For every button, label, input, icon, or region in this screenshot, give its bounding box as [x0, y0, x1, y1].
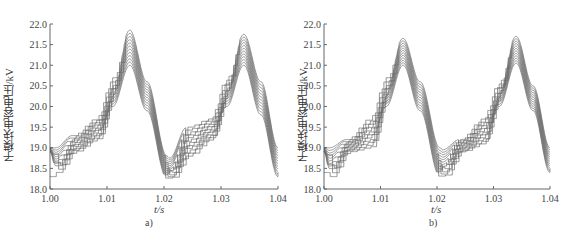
svg-text:20.0: 20.0 [304, 101, 322, 112]
svg-text:19.0: 19.0 [30, 142, 48, 153]
svg-text:21.0: 21.0 [304, 60, 322, 71]
chart-panel-a: 子模块电容电压/kV 18.018.519.019.520.020.521.02… [0, 0, 287, 244]
svg-text:22.0: 22.0 [304, 19, 322, 30]
svg-text:20.5: 20.5 [30, 80, 48, 91]
svg-text:21.5: 21.5 [30, 39, 48, 50]
panel-label-b: b) [429, 217, 437, 228]
panel-label-a: a) [145, 217, 153, 228]
x-axis-label-a: t/s [154, 203, 164, 215]
svg-text:19.5: 19.5 [30, 122, 48, 133]
chart-panel-b: 子模块电容电压/kV 18.018.519.019.520.020.521.02… [287, 0, 574, 244]
svg-text:21.5: 21.5 [304, 39, 322, 50]
svg-text:1.04: 1.04 [541, 193, 559, 204]
svg-text:19.5: 19.5 [304, 122, 322, 133]
svg-text:18.5: 18.5 [304, 163, 322, 174]
svg-text:1.04: 1.04 [269, 193, 287, 204]
svg-text:1.01: 1.01 [372, 193, 390, 204]
svg-text:20.0: 20.0 [30, 101, 48, 112]
svg-text:22.0: 22.0 [30, 19, 48, 30]
plot-area-a: 18.018.519.019.520.020.521.021.522.01.00… [0, 0, 287, 215]
plot-area-b: 18.018.519.019.520.020.521.021.522.01.00… [287, 0, 574, 215]
x-axis-label-b: t/s [431, 203, 441, 215]
svg-text:1.00: 1.00 [41, 193, 59, 204]
svg-text:19.0: 19.0 [304, 142, 322, 153]
svg-text:1.03: 1.03 [212, 193, 230, 204]
svg-text:18.5: 18.5 [30, 163, 48, 174]
svg-text:20.5: 20.5 [304, 80, 322, 91]
svg-text:1.03: 1.03 [485, 193, 503, 204]
svg-text:1.00: 1.00 [315, 193, 333, 204]
svg-text:1.01: 1.01 [98, 193, 116, 204]
svg-text:21.0: 21.0 [30, 60, 48, 71]
